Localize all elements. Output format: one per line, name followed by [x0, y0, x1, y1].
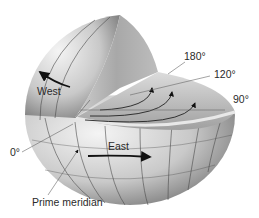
label-prime-meridian: Prime meridian — [32, 197, 103, 208]
label-west: West — [37, 86, 61, 97]
label-90-degrees: 90° — [233, 94, 249, 105]
label-0-degrees: 0° — [10, 147, 20, 158]
globe-diagram — [0, 0, 259, 218]
label-180-degrees: 180° — [184, 51, 206, 62]
label-east: East — [108, 141, 129, 152]
label-120-degrees: 120° — [214, 69, 236, 80]
